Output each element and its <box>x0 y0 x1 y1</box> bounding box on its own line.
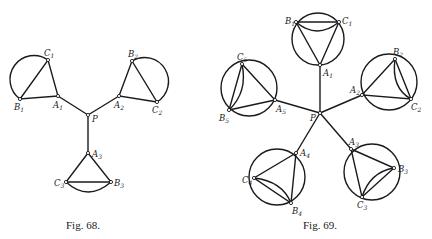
arc-b2c2 <box>132 57 169 102</box>
point-a3 <box>349 147 352 150</box>
arc-b1c1 <box>10 55 48 99</box>
caption-fig-69: Fig. 69. <box>303 219 337 231</box>
point-a1 <box>318 63 321 66</box>
point-c4 <box>252 176 255 179</box>
triangle-1 <box>292 13 344 65</box>
triangle-a1b1c1 <box>20 60 58 99</box>
circumcircle-1 <box>292 13 344 65</box>
spoke-p-a2 <box>320 95 362 113</box>
circumcircle-4 <box>249 149 305 205</box>
spoke-p-a3 <box>320 113 351 149</box>
point-b2 <box>393 57 396 60</box>
triangle-5 <box>221 60 277 116</box>
label-c2: C2 <box>152 105 163 116</box>
point-c2 <box>155 100 158 103</box>
triangle-2 <box>119 57 169 102</box>
caption-fig-68: Fig. 68. <box>66 219 100 231</box>
triangle-1 <box>10 55 58 99</box>
point-b4 <box>289 201 292 204</box>
label-a1: A1 <box>322 68 333 79</box>
triangle-a3b3c3 <box>66 153 111 182</box>
triangle-3 <box>66 153 111 192</box>
point-a4 <box>294 151 297 154</box>
triangle-a2b2c2 <box>119 61 157 102</box>
label-a2: A2 <box>349 85 360 96</box>
label-b5: B5 <box>218 113 229 124</box>
label-b3: B3 <box>113 178 124 189</box>
label-c1: C1 <box>44 48 54 59</box>
label-b1: B1 <box>284 16 295 27</box>
point-c1 <box>46 58 49 61</box>
triangle-4 <box>249 149 305 205</box>
figure-68: P A1 B1 C1 A2 B2 C2 A3 B3 C3 Fig. 68. <box>10 48 169 231</box>
triangle-a3b3c3 <box>351 149 394 197</box>
label-a3: A3 <box>91 149 102 160</box>
label-a3: A3 <box>348 137 359 148</box>
label-p: P <box>309 113 316 123</box>
label-c3: C3 <box>54 178 65 189</box>
point-c3 <box>64 180 67 183</box>
point-c2 <box>409 97 412 100</box>
triangle-2 <box>361 54 417 110</box>
point-c3 <box>360 195 363 198</box>
triangle-a4b4c4 <box>254 153 296 203</box>
label-c2: C2 <box>411 102 422 113</box>
label-c5: C5 <box>237 52 248 63</box>
point-a2 <box>360 93 363 96</box>
point-a3 <box>86 151 89 154</box>
point-a2 <box>117 94 120 97</box>
label-b2: B2 <box>127 49 138 60</box>
point-b3 <box>109 180 112 183</box>
label-b1: B1 <box>13 102 24 113</box>
point-a5 <box>273 98 276 101</box>
label-a5: A5 <box>275 104 286 115</box>
diagram-canvas: P A1 B1 C1 A2 B2 C2 A3 B3 C3 Fig. 68. <box>0 0 432 239</box>
label-a2: A2 <box>113 100 124 111</box>
arc-b1c1 <box>296 22 339 31</box>
spoke-p-a4 <box>296 113 320 153</box>
point-p <box>86 113 89 116</box>
label-b4: B4 <box>291 206 302 217</box>
triangle-3 <box>344 144 400 200</box>
point-c1 <box>337 20 340 23</box>
point-b5 <box>227 108 230 111</box>
point-a1 <box>56 94 59 97</box>
point-b2 <box>130 59 133 62</box>
point-b1 <box>18 97 21 100</box>
figure-69: P A1 B1 C1 A2 B2 C2 A3 B3 C3 A4 B4 C4 A5… <box>218 13 422 231</box>
circumcircle-2 <box>361 54 417 110</box>
label-b2: B2 <box>392 47 403 58</box>
label-c4: C4 <box>242 175 253 186</box>
label-b3: B3 <box>397 164 408 175</box>
triangle-a1b1c1 <box>296 22 339 65</box>
label-a4: A4 <box>299 148 310 159</box>
point-p <box>318 111 321 114</box>
label-c1: C1 <box>342 16 352 27</box>
label-a1: A1 <box>52 100 63 111</box>
label-c3: C3 <box>357 200 368 211</box>
label-p: P <box>91 114 98 124</box>
point-b3 <box>392 166 395 169</box>
arc-c3b3 <box>66 182 111 192</box>
